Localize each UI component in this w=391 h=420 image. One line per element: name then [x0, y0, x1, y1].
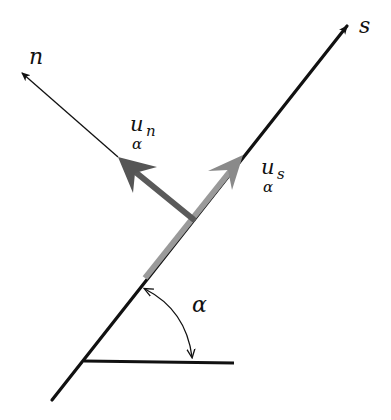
horizontal-reference-line [84, 361, 234, 363]
u-s-label-alpha: α [263, 178, 273, 196]
u-n-label-sub: n [146, 122, 156, 140]
u-s-shaft [145, 164, 236, 278]
u-n-shaft [128, 166, 193, 219]
s-axis-label: s [359, 13, 370, 38]
angle-arc [145, 289, 192, 357]
u-n-label-alpha: α [132, 135, 142, 153]
n-axis-line [22, 73, 118, 157]
u-s-label-main: u [261, 155, 275, 179]
angle-alpha-label: α [192, 292, 207, 317]
slope-diagram: s n u n α u s α α [0, 0, 391, 420]
u-s-label-sub: s [277, 165, 285, 183]
n-axis-label: n [29, 44, 43, 69]
u-n-label-main: u [130, 112, 144, 136]
